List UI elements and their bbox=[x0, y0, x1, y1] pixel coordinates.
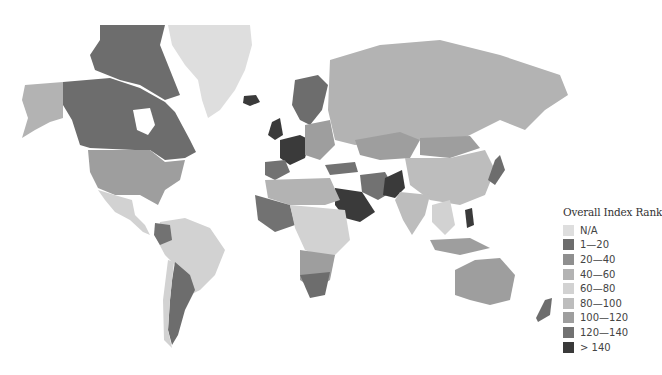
legend-label: N/A bbox=[580, 225, 598, 236]
region-uk bbox=[268, 118, 283, 140]
legend-swatch bbox=[563, 225, 574, 236]
legend-swatch bbox=[563, 239, 574, 250]
legend-label: 80—100 bbox=[580, 298, 622, 309]
region-scandinavia bbox=[292, 75, 328, 125]
region-turkey bbox=[325, 162, 358, 175]
legend-item: 80—100 bbox=[563, 296, 662, 311]
region-indonesia bbox=[430, 238, 490, 255]
legend-item: 40—60 bbox=[563, 267, 662, 282]
legend-swatch bbox=[563, 327, 574, 338]
legend-label: 40—60 bbox=[580, 269, 615, 280]
region-central-africa bbox=[290, 205, 350, 260]
legend-title: Overall Index Rank bbox=[563, 206, 662, 218]
region-alaska bbox=[22, 82, 63, 138]
region-russia bbox=[328, 40, 568, 145]
legend-label: 120—140 bbox=[580, 327, 628, 338]
legend-swatch bbox=[563, 254, 574, 265]
legend-swatch bbox=[563, 283, 574, 294]
region-iceland bbox=[243, 95, 260, 106]
legend-label: 20—40 bbox=[580, 254, 615, 265]
legend-label: 1—20 bbox=[580, 239, 609, 250]
region-india bbox=[395, 192, 430, 235]
region-south-africa bbox=[300, 272, 330, 298]
region-eastern-europe bbox=[305, 120, 335, 160]
legend-item: 1—20 bbox=[563, 238, 662, 253]
legend-swatch bbox=[563, 298, 574, 309]
legend-label: 100—120 bbox=[580, 312, 628, 323]
legend-item: > 140 bbox=[563, 340, 662, 355]
region-greenland bbox=[168, 25, 252, 118]
legend-swatch bbox=[563, 269, 574, 280]
legend-swatch bbox=[563, 312, 574, 323]
legend-label: 60—80 bbox=[580, 283, 615, 294]
region-philippines bbox=[465, 208, 474, 228]
region-australia bbox=[455, 258, 515, 305]
region-southeast-asia bbox=[432, 200, 455, 235]
region-iberia bbox=[265, 160, 290, 180]
legend-item: 60—80 bbox=[563, 281, 662, 296]
legend-label: > 140 bbox=[580, 342, 611, 353]
legend-item: 100—120 bbox=[563, 311, 662, 326]
legend: Overall Index Rank N/A 1—20 20—40 40—60 … bbox=[563, 206, 662, 354]
region-new-zealand bbox=[536, 298, 552, 322]
region-mexico bbox=[98, 190, 150, 235]
legend-item: N/A bbox=[563, 223, 662, 238]
legend-item: 120—140 bbox=[563, 325, 662, 340]
legend-swatch bbox=[563, 342, 574, 353]
legend-item: 20—40 bbox=[563, 252, 662, 267]
region-north-africa bbox=[265, 178, 340, 205]
